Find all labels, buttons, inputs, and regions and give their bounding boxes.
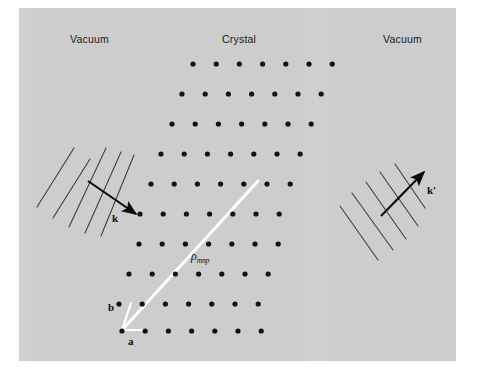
lattice-dot [203,91,208,96]
lattice-dot [195,181,200,186]
a-vector-label: a [128,335,134,347]
lattice-dot [116,301,121,306]
lattice-dot [306,61,311,66]
scene-svg [0,0,477,379]
k-prime-vector-label: k' [427,184,436,196]
lattice-dot [205,151,210,156]
k-prime-vector-arrow [381,172,424,216]
lattice-dot [209,301,214,306]
lattice-dot [226,91,231,96]
lattice-dot [249,91,254,96]
lattice-dot [237,61,242,66]
lattice-dot [212,328,217,333]
lattice-dot [285,121,290,126]
lattice-dot [137,211,142,216]
crystal-label: Crystal [222,33,256,45]
vacuum-right-label: Vacuum [383,33,422,45]
lattice-dot [206,241,211,246]
b-vector-label: b [108,301,114,313]
lattice-dot [182,151,187,156]
rho-mnp-label: ρmnp [191,249,209,265]
lattice-dot [196,271,201,276]
lattice-dot [179,91,184,96]
lattice-dot [252,241,257,246]
lattice-dot [288,181,293,186]
lattice-dot [239,121,244,126]
lattice-dot [172,181,177,186]
lattice-dot [169,121,174,126]
lattice-dot [264,181,269,186]
lattice-dot [136,241,141,246]
lattice-dot [276,241,281,246]
lattice-dot [230,211,235,216]
lattice-dot [283,61,288,66]
lattice-dot [256,301,261,306]
lattice-dot [242,271,247,276]
lattice-dot [241,181,246,186]
lattice-dot [143,328,148,333]
lattice-dot [214,61,219,66]
lattice-dot [150,271,155,276]
lattice-dot [277,211,282,216]
lattice-dot [190,61,195,66]
lattice-dot [216,121,221,126]
lattice-dot [166,328,171,333]
lattice-dot [253,211,258,216]
lattice-dot [309,121,314,126]
rho-subscript: mnp [197,256,209,265]
lattice-dot [183,241,188,246]
lattice-dot [259,328,264,333]
lattice-dot [235,328,240,333]
lattice-dot [219,271,224,276]
lattice-dot [330,61,335,66]
lattice-dot [160,241,165,246]
lattice-dot [295,91,300,96]
lattice-dot [298,151,303,156]
lattice-dot [126,271,131,276]
lattice-dot [119,328,124,333]
lattice-dot [193,121,198,126]
scattered-wavefronts [340,164,425,260]
lattice-dot [184,211,189,216]
lattice-dot [140,301,145,306]
lattice-dot [251,151,256,156]
lattice-dot [229,241,234,246]
lattice-dot [272,91,277,96]
lattice-dot [158,151,163,156]
lattice-dot [161,211,166,216]
rho-mnp-vector [122,181,258,330]
lattice-dot [186,301,191,306]
lattice-dot [228,151,233,156]
lattice-dot [173,271,178,276]
lattice-dot [260,61,265,66]
crystal-lattice-dots [116,61,334,333]
lattice-dot [218,181,223,186]
lattice-dot [232,301,237,306]
lattice-dot [319,91,324,96]
lattice-dot [207,211,212,216]
k-vector-label: k [112,212,118,224]
crystal-scattering-figure: Vacuum Crystal Vacuum k k' a b ρmnp [0,0,477,379]
vacuum-left-label: Vacuum [70,33,109,45]
lattice-dot [189,328,194,333]
incident-wavefronts [37,148,134,236]
lattice-dot [163,301,168,306]
lattice-dot [148,181,153,186]
lattice-dot [274,151,279,156]
lattice-dot [262,121,267,126]
lattice-dot [266,271,271,276]
